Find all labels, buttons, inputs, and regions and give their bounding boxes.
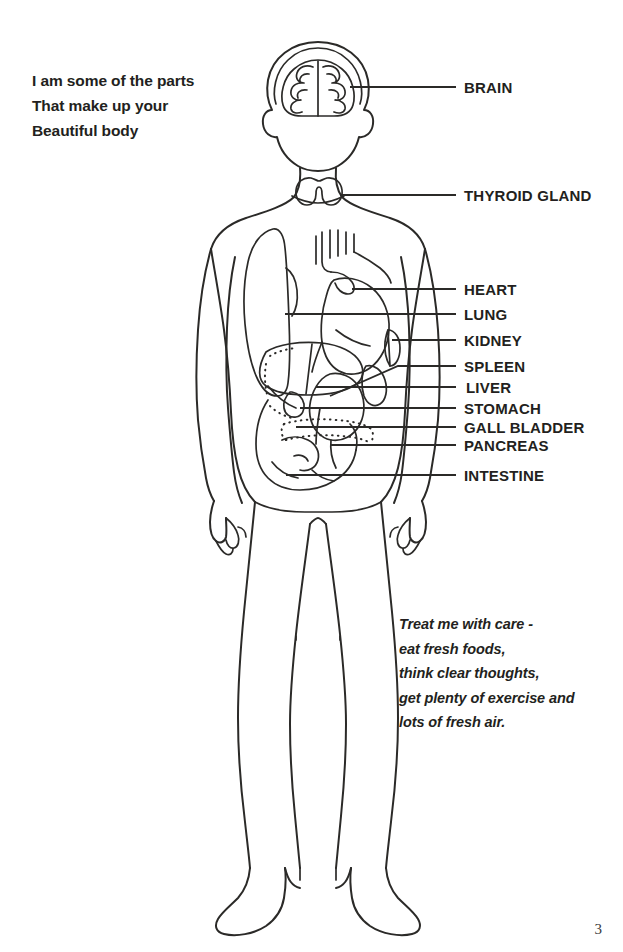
- organ-label-heart: HEART: [464, 281, 517, 298]
- organ-label-lung: LUNG: [464, 306, 507, 323]
- organ-label-intestine: INTESTINE: [464, 467, 544, 484]
- page-number: 3: [595, 921, 603, 938]
- advice-line-3: think clear thoughts,: [399, 661, 575, 686]
- organ-label-liver: LIVER: [466, 379, 511, 396]
- advice-line-4: get plenty of exercise and: [399, 686, 575, 711]
- advice-line-1: Treat me with care -: [399, 612, 575, 637]
- organ-label-gall-bladder: GALL BLADDER: [464, 419, 584, 436]
- gall-bladder-organ: [284, 392, 304, 417]
- leader-line-spleen: [330, 366, 456, 396]
- left-arm: [197, 249, 247, 555]
- intro-line-3: Beautiful body: [32, 118, 194, 143]
- trachea-bronchi: [316, 230, 391, 294]
- advice-line-5: lots of fresh air.: [399, 710, 575, 735]
- intro-line-1: I am some of the parts: [32, 68, 194, 93]
- organ-label-kidney: KIDNEY: [464, 332, 522, 349]
- intro-text-block: I am some of the parts That make up your…: [32, 68, 194, 143]
- intro-line-2: That make up your: [32, 93, 194, 118]
- feet-outline: [216, 868, 420, 935]
- legs-outline: [238, 502, 398, 868]
- right-arm: [390, 249, 440, 555]
- heart-organ: [312, 278, 389, 374]
- worksheet-page: I am some of the parts That make up your…: [0, 0, 623, 952]
- organ-label-pancreas: PANCREAS: [464, 437, 549, 454]
- organ-label-stomach: STOMACH: [464, 400, 541, 417]
- organ-label-thyroid: THYROID GLAND: [464, 187, 592, 204]
- lung-organ: [244, 229, 297, 396]
- advice-line-2: eat fresh foods,: [399, 637, 575, 662]
- organ-label-brain: BRAIN: [464, 79, 513, 96]
- organ-label-spleen: SPLEEN: [464, 358, 525, 375]
- advice-text-block: Treat me with care - eat fresh foods, th…: [399, 612, 575, 735]
- spleen-organ: [362, 366, 386, 406]
- kidney-organ: [385, 330, 400, 366]
- brain-organ: [282, 60, 354, 116]
